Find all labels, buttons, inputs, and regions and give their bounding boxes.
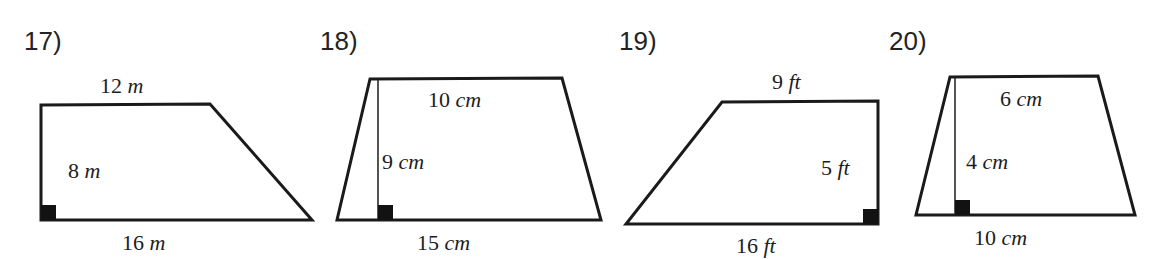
label-17-height: 8 m [68, 160, 100, 182]
figures-canvas [0, 0, 1159, 259]
label-18-bottom-side: 15 cm [417, 232, 470, 254]
label-17-top-side: 12 m [100, 75, 143, 97]
label-18-top-side: 10 cm [428, 89, 481, 111]
label-17-top-side-unit: m [128, 73, 144, 98]
label-18-height: 9 cm [382, 151, 424, 173]
problem-number-17: 17) [24, 28, 62, 54]
right-angle-marker-17 [41, 205, 56, 220]
label-17-height-unit: m [85, 158, 101, 183]
label-17-bottom-side: 16 m [122, 232, 165, 254]
label-18-bottom-side-value: 15 [417, 230, 439, 255]
label-18-top-side-value: 10 [428, 87, 450, 112]
label-19-bottom-side-value: 16 [736, 233, 758, 258]
problem-number-18: 18) [320, 28, 358, 54]
label-20-bottom-side: 10 cm [974, 227, 1027, 249]
label-18-bottom-side-unit: cm [445, 230, 471, 255]
label-19-bottom-side: 16 ft [736, 235, 776, 257]
label-19-height-value: 5 [821, 155, 832, 180]
worksheet-page: 17) 18) 19) 20) 12 m 8 m 16 m 10 cm 9 cm… [0, 0, 1159, 259]
label-20-top-side-unit: cm [1017, 86, 1043, 111]
label-17-bottom-side-value: 16 [122, 230, 144, 255]
label-19-top-side-unit: ft [789, 69, 801, 94]
label-19-bottom-side-unit: ft [764, 233, 776, 258]
label-20-top-side-value: 6 [1000, 86, 1011, 111]
label-19-top-side-value: 9 [772, 69, 783, 94]
right-angle-marker-20 [955, 200, 970, 215]
label-19-top-side: 9 ft [772, 71, 801, 93]
label-18-height-value: 9 [382, 149, 393, 174]
label-18-height-unit: cm [399, 149, 425, 174]
label-20-height-unit: cm [983, 149, 1009, 174]
label-20-height: 4 cm [966, 151, 1008, 173]
label-17-height-value: 8 [68, 158, 79, 183]
label-19-height-unit: ft [838, 155, 850, 180]
label-20-height-value: 4 [966, 149, 977, 174]
label-20-top-side: 6 cm [1000, 88, 1042, 110]
label-20-bottom-side-value: 10 [974, 225, 996, 250]
label-19-height: 5 ft [821, 157, 850, 179]
label-17-bottom-side-unit: m [150, 230, 166, 255]
problem-number-19: 19) [619, 28, 657, 54]
label-17-top-side-value: 12 [100, 73, 122, 98]
problem-number-20: 20) [889, 28, 927, 54]
label-18-top-side-unit: cm [456, 87, 482, 112]
right-angle-marker-18 [378, 205, 393, 220]
right-angle-marker-19 [863, 209, 878, 224]
label-20-bottom-side-unit: cm [1002, 225, 1028, 250]
